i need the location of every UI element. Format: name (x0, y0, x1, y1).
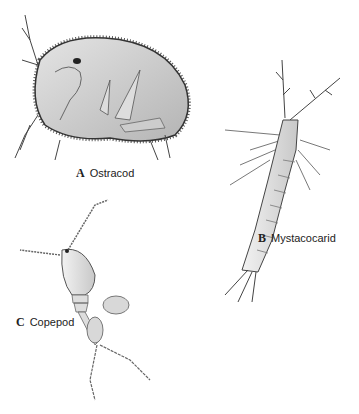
panel-letter: B (258, 231, 266, 245)
panel-name: Mystacocarid (271, 232, 336, 244)
label-ostracod: AOstracod (76, 166, 134, 181)
panel-name: Copepod (30, 316, 75, 328)
crustacean-figure: AOstracod BMystacocarid CCopepod (0, 0, 359, 414)
copepod-illustration (20, 200, 150, 400)
mystacocarid-illustration (225, 60, 340, 302)
label-mystacocarid: BMystacocarid (258, 231, 336, 246)
ostracod-illustration (15, 15, 188, 160)
panel-name: Ostracod (90, 167, 135, 179)
illustrations (0, 0, 359, 414)
panel-letter: C (16, 315, 25, 329)
panel-letter: A (76, 166, 85, 180)
label-copepod: CCopepod (16, 315, 74, 330)
